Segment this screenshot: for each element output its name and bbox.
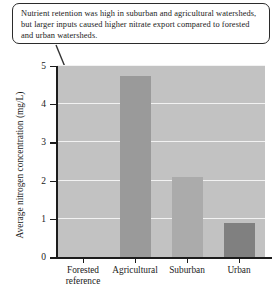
gridline — [57, 180, 265, 181]
x-axis-category-label: Suburban — [157, 265, 217, 276]
y-axis-tick — [50, 142, 56, 143]
figure-container: Nutrient retention was high in suburban … — [0, 0, 276, 298]
y-axis-tick-label: 5 — [26, 61, 46, 71]
gridline — [57, 141, 265, 142]
x-axis-tick — [83, 257, 84, 263]
annotation-callout: Nutrient retention was high in suburban … — [12, 3, 270, 44]
y-axis-tick — [50, 104, 56, 105]
y-axis-tick — [50, 66, 56, 67]
x-axis-tick — [187, 257, 188, 263]
x-axis-category-label: Agricultural — [105, 265, 165, 276]
y-axis-tick-label: 2 — [26, 176, 46, 186]
y-axis-tick-label: 3 — [26, 137, 46, 147]
gridline — [57, 65, 265, 66]
gridline — [57, 103, 265, 104]
y-axis-tick — [50, 257, 56, 258]
bar — [224, 223, 255, 257]
y-axis-line — [56, 66, 58, 258]
y-axis-tick-label: 0 — [26, 252, 46, 262]
y-axis-tick-label: 4 — [26, 99, 46, 109]
y-axis-tick — [50, 219, 56, 220]
gridline — [57, 218, 265, 219]
y-axis-tick-label: 1 — [26, 214, 46, 224]
annotation-text: Nutrient retention was high in suburban … — [21, 8, 262, 42]
bar — [172, 177, 203, 257]
x-axis-category-label: Urban — [209, 265, 269, 276]
x-axis-category-label: Forested reference — [53, 265, 113, 287]
bar — [120, 76, 151, 257]
y-axis-tick — [50, 181, 56, 182]
y-axis-title: Average nitrogen concentration (mg/L) — [15, 75, 25, 255]
x-axis-tick — [239, 257, 240, 263]
plot-area — [57, 66, 265, 257]
x-axis-tick — [135, 257, 136, 263]
